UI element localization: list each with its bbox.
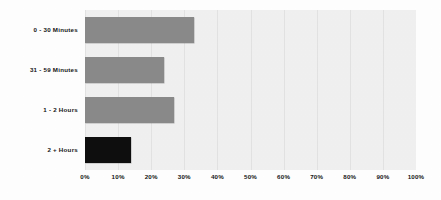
bar-chart: 0 - 30 Minutes31 - 59 Minutes1 - 2 Hours… — [0, 0, 441, 200]
x-tick-label-2: 10% — [112, 173, 125, 180]
x-tick-label-8: 70% — [310, 173, 323, 180]
x-tick-label-4: 30% — [178, 173, 191, 180]
category-label-4: 2 + Hours — [0, 146, 78, 154]
bar-row — [85, 10, 416, 50]
bar-row — [85, 50, 416, 90]
category-label-2: 31 - 59 Minutes — [0, 66, 78, 74]
x-tick-label-11: 100% — [408, 173, 425, 180]
bar-1[interactable] — [85, 17, 194, 43]
x-tick-label-1: 0% — [80, 173, 89, 180]
bar-4[interactable] — [85, 137, 131, 163]
x-tick-label-6: 50% — [244, 173, 257, 180]
bar-2[interactable] — [85, 57, 164, 83]
x-tick-label-3: 20% — [145, 173, 158, 180]
x-tick-label-10: 90% — [376, 173, 389, 180]
x-tick-label-9: 80% — [343, 173, 356, 180]
category-label-1: 0 - 30 Minutes — [0, 26, 78, 34]
category-axis: 0 - 30 Minutes31 - 59 Minutes1 - 2 Hours… — [0, 10, 82, 170]
x-tick-label-7: 60% — [277, 173, 290, 180]
category-label-3: 1 - 2 Hours — [0, 106, 78, 114]
x-tick-label-5: 40% — [211, 173, 224, 180]
bar-3[interactable] — [85, 97, 174, 123]
value-axis: 0%10%20%30%40%50%60%70%80%90%100% — [85, 173, 416, 185]
bar-row — [85, 90, 416, 130]
bar-row — [85, 130, 416, 170]
bars-layer — [85, 10, 416, 170]
plot-area — [85, 10, 416, 170]
